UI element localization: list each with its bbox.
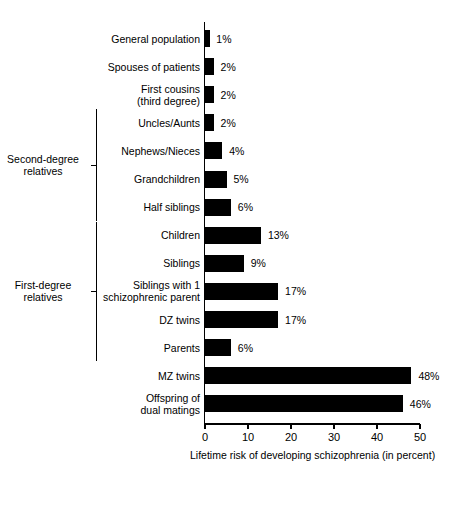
bar bbox=[205, 227, 261, 244]
bar bbox=[205, 395, 403, 412]
bar bbox=[205, 114, 214, 131]
group-bracket bbox=[88, 222, 98, 361]
bar bbox=[205, 58, 214, 75]
category-label: Children bbox=[161, 229, 200, 241]
bar bbox=[205, 283, 278, 300]
bar-value-label: 17% bbox=[285, 285, 306, 297]
bracket-nub bbox=[91, 165, 97, 166]
category-label: DZ twins bbox=[159, 314, 200, 326]
category-label: Offspring of dual matings bbox=[140, 392, 200, 416]
category-label: Half siblings bbox=[143, 201, 200, 213]
category-label: Siblings with 1 schizophrenic parent bbox=[103, 279, 200, 303]
x-axis-tick-label: 40 bbox=[362, 431, 392, 443]
category-label: Nephews/Nieces bbox=[121, 145, 200, 157]
category-label: Siblings bbox=[163, 257, 200, 269]
x-axis-tick bbox=[247, 424, 248, 429]
x-axis-title: Lifetime risk of developing schizophreni… bbox=[190, 449, 435, 461]
x-axis-tick-label: 10 bbox=[233, 431, 263, 443]
bracket-nub bbox=[91, 291, 97, 292]
category-label: MZ twins bbox=[158, 370, 200, 382]
bar-value-label: 17% bbox=[285, 314, 306, 326]
category-label: First cousins (third degree) bbox=[137, 83, 200, 107]
category-label: Uncles/Aunts bbox=[138, 117, 200, 129]
category-label: Grandchildren bbox=[134, 173, 200, 185]
group-bracket bbox=[88, 109, 98, 220]
bar-value-label: 13% bbox=[268, 229, 289, 241]
x-axis-line bbox=[204, 423, 420, 424]
bar bbox=[205, 30, 210, 47]
x-axis-tick bbox=[333, 424, 334, 429]
bar bbox=[205, 339, 231, 356]
category-label: General population bbox=[111, 33, 200, 45]
category-label: Parents bbox=[164, 342, 200, 354]
x-axis-tick bbox=[290, 424, 291, 429]
bar-value-label: 4% bbox=[229, 145, 244, 157]
bar-value-label: 5% bbox=[234, 173, 249, 185]
bar-value-label: 1% bbox=[216, 33, 231, 45]
bar bbox=[205, 142, 222, 159]
bar bbox=[205, 171, 227, 188]
category-label: Spouses of patients bbox=[108, 61, 200, 73]
bar-value-label: 2% bbox=[221, 117, 236, 129]
bar-value-label: 6% bbox=[238, 342, 253, 354]
group-label: Second-degree relatives bbox=[0, 153, 86, 177]
bar bbox=[205, 199, 231, 216]
x-axis-tick bbox=[376, 424, 377, 429]
x-axis-tick-label: 0 bbox=[190, 431, 220, 443]
schizophrenia-risk-bar-chart: 01020304050Lifetime risk of developing s… bbox=[0, 0, 459, 506]
x-axis-tick-label: 20 bbox=[276, 431, 306, 443]
x-axis-tick-label: 50 bbox=[405, 431, 435, 443]
bar bbox=[205, 86, 214, 103]
bar-value-label: 9% bbox=[251, 257, 266, 269]
bar-value-label: 46% bbox=[410, 398, 431, 410]
bar-value-label: 2% bbox=[221, 61, 236, 73]
bar-value-label: 2% bbox=[221, 89, 236, 101]
y-axis-line bbox=[204, 22, 205, 423]
bar bbox=[205, 311, 278, 328]
bar-value-label: 48% bbox=[418, 370, 439, 382]
bar bbox=[205, 367, 411, 384]
x-axis-tick-label: 30 bbox=[319, 431, 349, 443]
x-axis-tick bbox=[419, 424, 420, 429]
bar-value-label: 6% bbox=[238, 201, 253, 213]
bar bbox=[205, 255, 244, 272]
x-axis-tick bbox=[204, 424, 205, 429]
group-label: First-degree relatives bbox=[0, 279, 86, 303]
